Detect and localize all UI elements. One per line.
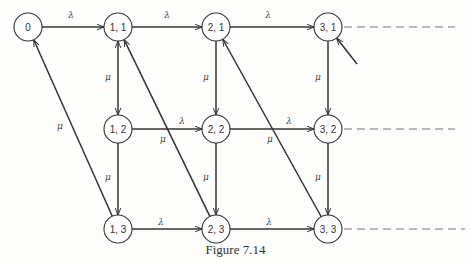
edge-rate-label: μ xyxy=(105,172,111,182)
edge-rate-label: λ xyxy=(265,217,272,227)
edge-labels: λλλλλλλμμμμμμμμμ xyxy=(57,10,321,227)
edge-rate-label: μ xyxy=(160,134,166,144)
state-transition-diagram: 01, 12, 13, 11, 22, 23, 21, 32, 33, 3 λλ… xyxy=(0,0,471,264)
diagram-svg: 01, 12, 13, 11, 22, 23, 21, 32, 33, 3 λλ… xyxy=(0,0,471,264)
state-label: 2, 3 xyxy=(208,224,225,235)
nodes-layer: 01, 12, 13, 11, 22, 23, 21, 32, 33, 3 xyxy=(14,13,342,243)
state-label: 1, 3 xyxy=(110,224,127,235)
edge-1-3-to-0 xyxy=(34,40,113,216)
state-label: 3, 1 xyxy=(320,22,337,33)
state-node: 1, 3 xyxy=(104,215,132,243)
edge-rate-label: λ xyxy=(163,10,170,20)
incoming-arrow xyxy=(337,38,357,64)
state-label: 3, 3 xyxy=(320,224,337,235)
edge-rate-label: λ xyxy=(178,116,185,126)
edge-3-3-to-2-1 xyxy=(223,39,321,217)
state-node: 3, 2 xyxy=(314,115,342,143)
state-label: 1, 1 xyxy=(110,22,127,33)
state-node: 1, 2 xyxy=(104,115,132,143)
figure-caption: Figure 7.14 xyxy=(0,242,471,258)
state-node: 3, 3 xyxy=(314,215,342,243)
edge-rate-label: μ xyxy=(57,121,63,131)
edge-rate-label: μ xyxy=(105,72,111,82)
state-node: 3, 1 xyxy=(314,13,342,41)
state-label: 3, 2 xyxy=(320,124,337,135)
edge-rate-label: μ xyxy=(267,134,273,144)
state-label: 2, 2 xyxy=(208,124,225,135)
state-node: 2, 3 xyxy=(202,215,230,243)
edge-rate-label: λ xyxy=(285,116,292,126)
continuation-lines xyxy=(344,27,465,229)
edge-2-3-to-1-1 xyxy=(124,40,210,217)
edge-rate-label: μ xyxy=(203,172,209,182)
edge-rate-label: λ xyxy=(264,10,271,20)
state-node: 2, 2 xyxy=(202,115,230,143)
edges-layer xyxy=(34,27,357,229)
state-node: 1, 1 xyxy=(104,13,132,41)
edge-rate-label: λ xyxy=(157,217,164,227)
state-label: 1, 2 xyxy=(110,124,127,135)
edge-rate-label: μ xyxy=(315,172,321,182)
state-node: 2, 1 xyxy=(202,13,230,41)
edge-rate-label: λ xyxy=(67,10,74,20)
state-label: 0 xyxy=(25,22,31,33)
edge-rate-label: μ xyxy=(315,72,321,82)
edge-rate-label: μ xyxy=(203,72,209,82)
state-node: 0 xyxy=(14,13,42,41)
state-label: 2, 1 xyxy=(208,22,225,33)
